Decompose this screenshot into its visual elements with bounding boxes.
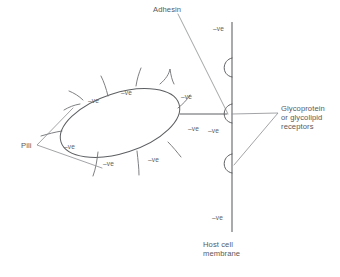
receptor-socket-top [224,58,232,77]
bact-charge-top-right: –ve [181,92,192,101]
pili-group [41,68,190,176]
pilus-7 [93,152,98,176]
pili-label: Pili [21,141,32,150]
membrane-charge-middle: –ve [208,126,219,135]
receptor-leader-group [232,113,278,165]
receptor-socket-bottom [224,154,232,173]
membrane-charge-bottom: –ve [212,213,223,222]
adhesin-label: Adhesin [153,5,181,14]
receptors-label: Glycoprotein or glycolipid receptors [281,104,325,132]
diagram-canvas [0,0,340,277]
bacterial-adhesion-diagram: Adhesin Pili Glycoprotein or glycolipid … [0,0,340,277]
host-cell-membrane-label: Host cell membrane [203,240,240,258]
pilus-1 [101,76,108,96]
pilus-3 [160,69,174,84]
pilus-8 [137,151,139,175]
membrane-charge-top: –ve [213,24,224,33]
pilus-4 [69,91,83,100]
bact-charge-bottom-right: –ve [148,155,159,164]
bact-charge-top-mid: –ve [121,88,132,97]
bacterium-body [52,75,188,170]
receptor-leader-lines [232,113,278,165]
bacterium-group [52,75,188,170]
bact-charge-right: –ve [188,124,199,133]
bact-charge-left: –ve [64,142,75,151]
bact-charge-bottom-left: –ve [103,159,114,168]
bact-charge-top-left: –ve [88,96,99,105]
pilus-2 [136,68,141,86]
pili-leader-lines [37,108,102,168]
pilus-6 [41,131,62,136]
receptor-group [224,58,232,173]
pilus-9 [168,142,181,157]
pili-leader-group [37,108,102,168]
